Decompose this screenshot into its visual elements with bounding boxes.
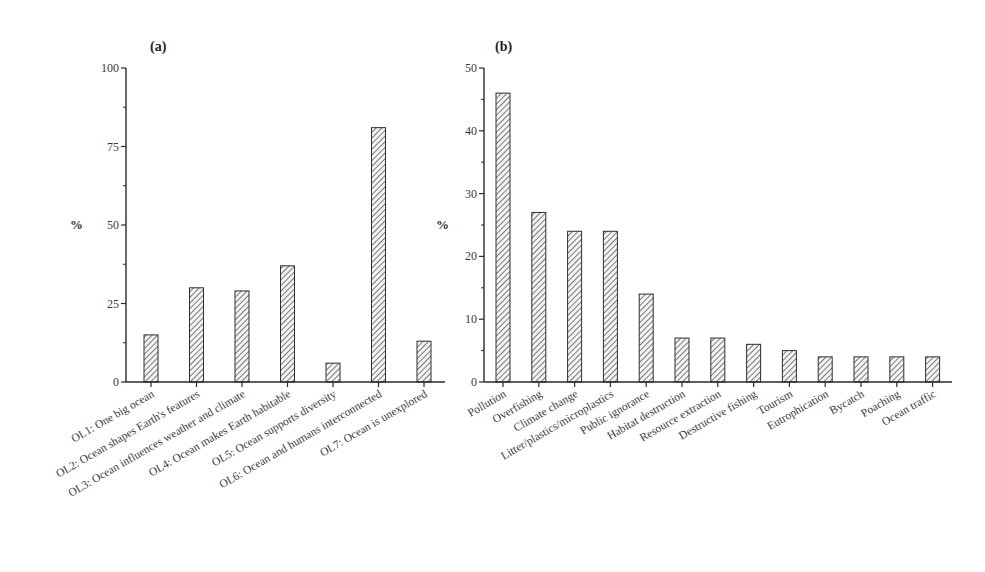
y-tick-label: 75 <box>107 140 119 154</box>
panel-a-x-labels: OL1: One big oceanOL2: Ocean shapes Eart… <box>54 387 430 499</box>
bar <box>190 288 204 382</box>
bar <box>326 363 340 382</box>
y-tick-label: 0 <box>113 375 119 389</box>
bar <box>568 231 582 382</box>
y-tick-label: 50 <box>107 218 119 232</box>
bar <box>854 357 868 382</box>
bar <box>144 335 158 382</box>
panel-b-x-labels: PollutionOverfishingClimate changeLitter… <box>465 387 937 462</box>
panel-b-title: (b) <box>495 39 512 55</box>
bar <box>890 357 904 382</box>
y-tick-label: 0 <box>471 375 477 389</box>
y-tick-label: 20 <box>465 249 477 263</box>
bar <box>496 93 510 382</box>
bar <box>281 266 295 382</box>
panel-b-y-ticks: 01020304050 <box>465 61 484 389</box>
figure: (a) % 0255075100 OL1: One big oceanOL2: … <box>0 0 985 572</box>
bar <box>818 357 832 382</box>
bar <box>417 341 431 382</box>
bar <box>747 344 761 382</box>
bar <box>711 338 725 382</box>
panel-a-y-axis-label: % <box>70 217 83 232</box>
bar <box>372 128 386 382</box>
y-tick-label: 25 <box>107 297 119 311</box>
y-tick-label: 100 <box>101 61 119 75</box>
y-tick-label: 50 <box>465 61 477 75</box>
panel-b: (b) % 01020304050 PollutionOverfishingCl… <box>436 39 952 462</box>
y-tick-label: 10 <box>465 312 477 326</box>
panel-a: (a) % 0255075100 OL1: One big oceanOL2: … <box>54 39 445 499</box>
bar <box>235 291 249 382</box>
bar <box>675 338 689 382</box>
bar <box>532 212 546 382</box>
bar <box>603 231 617 382</box>
y-tick-label: 30 <box>465 187 477 201</box>
y-tick-label: 40 <box>465 124 477 138</box>
panel-a-y-ticks: 0255075100 <box>101 61 126 389</box>
panel-b-y-axis-label: % <box>436 217 449 232</box>
panel-a-bars <box>144 128 431 387</box>
bar <box>782 351 796 382</box>
panel-a-title: (a) <box>150 39 167 55</box>
bar <box>639 294 653 382</box>
panel-b-bars <box>496 93 940 387</box>
bar <box>926 357 940 382</box>
